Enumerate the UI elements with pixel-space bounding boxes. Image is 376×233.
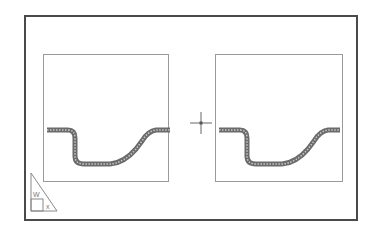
viewport-left[interactable]: [43, 54, 169, 182]
crosshair-cursor-icon: [190, 112, 212, 134]
ucs-x-label: x: [46, 203, 50, 210]
tube-profile-drawing: [216, 55, 344, 183]
ucs-y-label: W: [33, 191, 40, 198]
viewport-right[interactable]: [215, 54, 343, 182]
tube-profile-drawing: [44, 55, 170, 183]
drawing-canvas[interactable]: W x: [0, 0, 376, 233]
ucs-paper-space-icon: W x: [29, 172, 59, 212]
